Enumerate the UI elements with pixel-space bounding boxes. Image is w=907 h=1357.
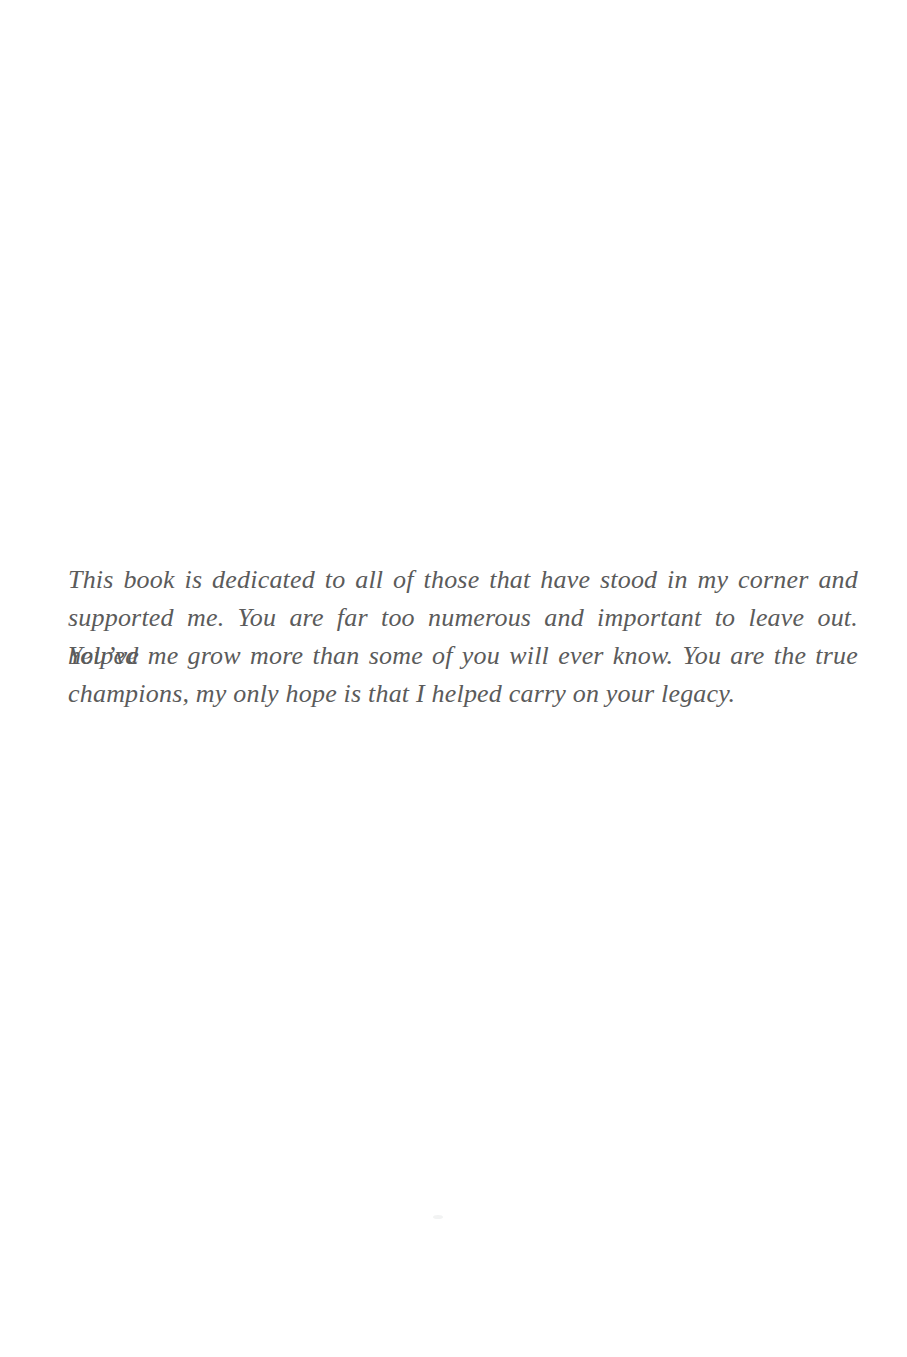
dedication-line-3: helped me grow more than some of you wil… — [68, 637, 858, 675]
dedication-paragraph: This book is dedicated to all of those t… — [68, 561, 858, 713]
dedication-line-4: champions, my only hope is that I helped… — [68, 675, 858, 713]
book-page: This book is dedicated to all of those t… — [0, 0, 907, 1357]
dedication-line-1: This book is dedicated to all of those t… — [68, 561, 858, 599]
scan-smudge-artifact — [433, 1215, 443, 1219]
dedication-line-2: supported me. You are far too numerous a… — [68, 599, 858, 637]
